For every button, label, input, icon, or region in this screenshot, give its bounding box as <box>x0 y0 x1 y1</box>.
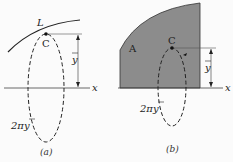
circumference-label-a: 2πy <box>10 120 30 131</box>
area-label: A <box>128 43 137 54</box>
ybar-label-a: y <box>71 54 78 65</box>
arrow-up-icon <box>209 49 213 54</box>
ybar-label-b: y <box>204 62 211 73</box>
arrow-down-icon <box>209 82 213 87</box>
centroid-label-b: C <box>168 35 176 46</box>
centroid-label-a: C <box>42 38 50 49</box>
x-axis-label-a: x <box>92 82 98 93</box>
pappus-diagrams: L C y x 2πy (a) A C y x 2πy (b) <box>0 0 233 162</box>
curve-label: L <box>36 17 44 28</box>
caption-a: (a) <box>40 147 53 157</box>
figure-b: A C y x 2πy (b) <box>118 3 231 154</box>
figure-a: L C y x 2πy (a) <box>4 17 98 157</box>
caption-b: (b) <box>166 144 179 154</box>
x-axis-label-b: x <box>225 82 231 93</box>
arrow-up-icon <box>76 35 80 40</box>
arrow-down-icon <box>76 82 80 87</box>
circumference-label-b: 2πy <box>139 103 159 114</box>
